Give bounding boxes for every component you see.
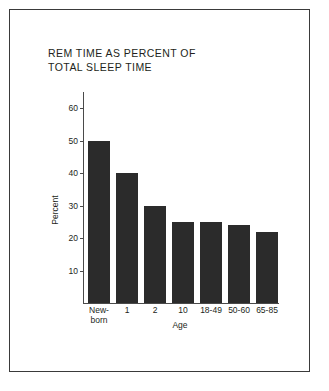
bar	[256, 232, 278, 303]
bar	[88, 141, 110, 303]
figure: REM TIME AS PERCENT OF TOTAL SLEEP TIME …	[0, 0, 329, 391]
bar	[172, 222, 194, 303]
y-tick-label: 30	[56, 201, 78, 211]
y-tick-mark	[80, 271, 83, 272]
y-tick-label: 50	[56, 136, 78, 146]
plot-area: Percent Age 102030405060 New- born121018…	[0, 0, 329, 391]
y-tick-mark	[80, 238, 83, 239]
y-tick-mark	[80, 206, 83, 207]
x-axis-label: Age	[150, 320, 210, 330]
y-tick-label: 20	[56, 233, 78, 243]
y-tick-label: 40	[56, 168, 78, 178]
x-axis-line	[83, 303, 279, 304]
x-tick-label: 65-85	[247, 306, 287, 316]
y-tick-mark	[80, 108, 83, 109]
bar	[200, 222, 222, 303]
y-tick-mark	[80, 141, 83, 142]
y-tick-mark	[80, 173, 83, 174]
bar	[116, 173, 138, 303]
bar	[144, 206, 166, 303]
bar	[228, 225, 250, 303]
y-tick-label: 60	[56, 103, 78, 113]
y-axis-line	[83, 92, 84, 304]
y-tick-label: 10	[56, 266, 78, 276]
